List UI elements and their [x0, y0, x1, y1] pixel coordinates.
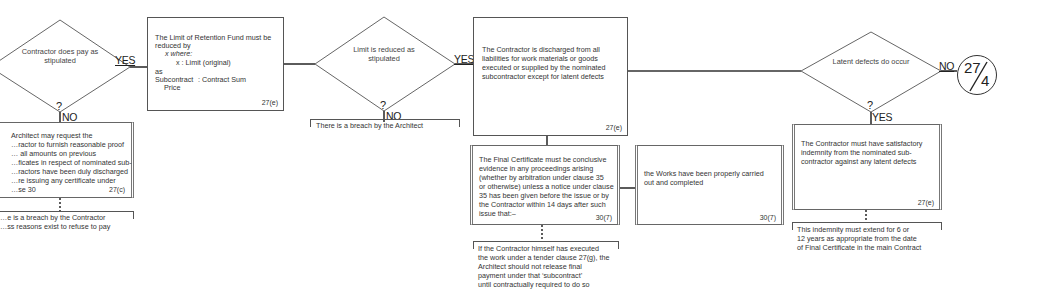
final-certificate-text: The Final Certificate must be conclusive…	[479, 155, 621, 218]
indemnity-extent-text: This indemnity must extend for 6 or 12 y…	[797, 225, 942, 252]
final-certificate-ref: 30(7)	[596, 214, 612, 221]
decision-3-yes-label: YES	[872, 111, 892, 123]
retention-line-4: x : Limit (original)	[176, 58, 231, 67]
decision-2-yes-label: YES	[454, 53, 474, 65]
works-completed-box: the Works have been properly carried out…	[635, 145, 784, 225]
breach-architect-text: There is a breach by the Architect	[316, 121, 423, 130]
tender-clause-text: If the Contractor himself has executed t…	[478, 244, 620, 289]
contractor-discharged-ref: 27(e)	[606, 124, 622, 131]
indemnity-ref: 27(e)	[918, 199, 934, 206]
contractor-discharged-text: The Contractor is discharged from all li…	[482, 45, 627, 81]
retention-line-6b: : Contract Sum	[198, 75, 246, 84]
breach-contractor-note: …e is a breach by the Contractor …ss rea…	[0, 211, 134, 231]
architect-proof-ref: 27(c)	[109, 186, 125, 193]
architect-proof-box: Architect may request the …ractor to fur…	[0, 122, 134, 198]
breach-contractor-text: …e is a breach by the Contractor …ss rea…	[0, 213, 132, 231]
retention-line-7: Price	[164, 83, 180, 92]
decision-1-yes-label: YES	[115, 54, 135, 66]
breach-architect-note: There is a breach by the Architect	[310, 119, 460, 133]
final-certificate-box: The Final Certificate must be conclusive…	[470, 145, 620, 225]
connector-page-number: 27	[964, 59, 981, 76]
retention-ref: 27(e)	[262, 99, 278, 106]
works-completed-ref: 30(7)	[760, 214, 776, 221]
works-completed-text: the Works have been properly carried out…	[644, 169, 784, 187]
decision-3-no-label: NO	[939, 60, 954, 72]
connector-section-number: 4	[981, 72, 989, 89]
contractor-discharged-box: The Contractor is discharged from all li…	[473, 17, 628, 136]
indemnity-text: The Contractor must have satisfactory in…	[801, 139, 943, 166]
retention-fund-box: The Limit of Retention Fund must be redu…	[147, 17, 284, 111]
indemnity-box: The Contractor must have satisfactory in…	[792, 124, 942, 210]
decision-3-question-mark: ?	[867, 99, 873, 111]
indemnity-extent-note: This indemnity must extend for 6 or 12 y…	[792, 222, 942, 250]
tender-clause-note: If the Contractor himself has executed t…	[473, 241, 619, 271]
retention-line-3: x where:	[165, 49, 192, 58]
decision-limit-reduced-text: Limit is reduced as stipulated	[342, 45, 426, 63]
decision-latent-defects-text: Latent defects do occur	[829, 57, 913, 66]
architect-proof-text: Architect may request the …ractor to fur…	[11, 131, 135, 194]
decision-contractor-pays-text: Contractor does pay as stipulated	[18, 47, 102, 65]
off-page-connector[interactable]: 27 4	[957, 55, 997, 95]
